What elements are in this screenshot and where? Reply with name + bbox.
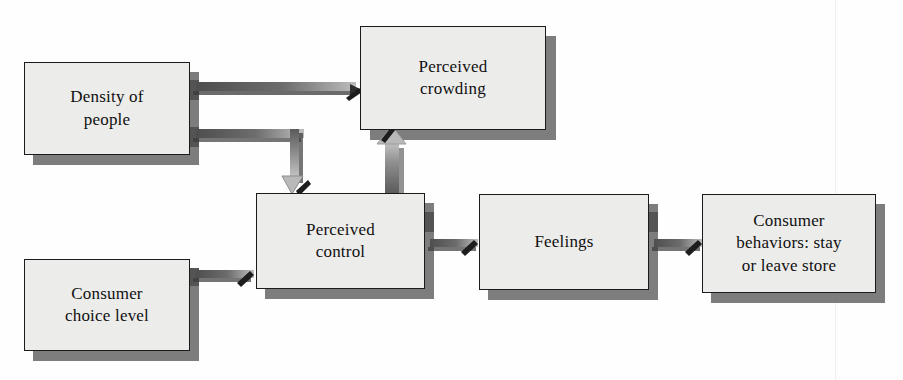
arrow-control-to-feelings [428, 239, 478, 256]
diagram-canvas: Density of people Perceived crowding Per… [0, 0, 903, 380]
node-consumer-choice-level[interactable]: Consumer choice level [24, 259, 190, 351]
node-consumer-choice-level-label: Consumer choice level [59, 283, 155, 328]
node-perceived-crowding-line2: crowding [420, 79, 486, 98]
node-consumer-choice-level-line2: choice level [65, 306, 149, 325]
node-perceived-control[interactable]: Perceived control [256, 193, 425, 289]
arrow-density-to-control [193, 129, 311, 196]
node-perceived-control-line1: Perceived [306, 220, 375, 239]
node-feelings[interactable]: Feelings [479, 194, 649, 290]
node-density-of-people-label: Density of people [64, 86, 149, 131]
node-density-of-people[interactable]: Density of people [24, 62, 190, 155]
node-consumer-behaviors[interactable]: Consumer behaviors: stay or leave store [702, 194, 876, 293]
node-perceived-control-label: Perceived control [300, 219, 381, 264]
node-consumer-behaviors-line3: or leave store [742, 256, 836, 275]
node-feelings-line1: Feelings [534, 232, 593, 251]
node-perceived-control-line2: control [316, 242, 366, 261]
node-consumer-behaviors-label: Consumer behaviors: stay or leave store [730, 210, 847, 277]
node-consumer-choice-level-line1: Consumer [71, 284, 142, 303]
node-perceived-crowding[interactable]: Perceived crowding [360, 26, 546, 130]
arrow-control-to-crowding [377, 126, 406, 196]
node-perceived-crowding-label: Perceived crowding [413, 56, 494, 101]
node-density-of-people-line1: Density of [70, 87, 143, 106]
arrow-feelings-to-behaviors [652, 239, 702, 256]
node-consumer-behaviors-line2: behaviors: stay [736, 233, 841, 252]
node-density-of-people-line2: people [84, 110, 131, 129]
arrow-choice-to-control [193, 270, 254, 287]
arrow-density-to-crowding [193, 82, 362, 101]
node-consumer-behaviors-line1: Consumer [753, 211, 824, 230]
node-perceived-crowding-line1: Perceived [419, 57, 488, 76]
node-feelings-label: Feelings [528, 231, 599, 253]
